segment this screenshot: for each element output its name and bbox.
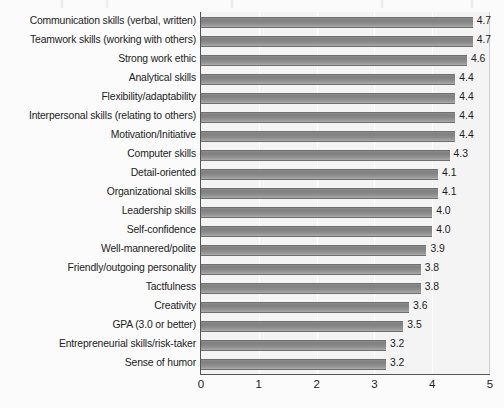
x-tick-label: 4: [429, 378, 435, 390]
bar-row: Strong work ethic4.6: [0, 51, 504, 70]
bar-track: 4.1: [201, 186, 490, 201]
bar: [201, 74, 455, 85]
bar-row: Leadership skills4.0: [0, 203, 504, 222]
bar: [201, 340, 386, 351]
x-tick-label: 3: [371, 378, 377, 390]
category-label: Well-mannered/polite: [101, 241, 196, 261]
category-label: Tactfulness: [146, 279, 196, 299]
bar-value-label: 3.8: [425, 262, 439, 273]
bar-track: 3.8: [201, 281, 490, 296]
bar: [201, 245, 426, 256]
x-tick-label: 0: [198, 378, 204, 390]
category-label: Organizational skills: [107, 184, 196, 204]
x-tick-label: 5: [487, 378, 493, 390]
category-label: Detail-oriented: [131, 165, 196, 185]
bar-row: Computer skills4.3: [0, 146, 504, 165]
category-label: Self-confidence: [127, 222, 196, 242]
bar-track: 3.8: [201, 262, 490, 277]
bar-track: 4.7: [201, 34, 490, 49]
bar: [201, 321, 403, 332]
category-label: GPA (3.0 or better): [112, 317, 196, 337]
category-label: Flexibility/adaptability: [101, 89, 196, 109]
bar-track: 3.2: [201, 338, 490, 353]
category-label: Computer skills: [127, 146, 196, 166]
bar-row: Detail-oriented4.1: [0, 165, 504, 184]
bar-track: 4.7: [201, 15, 490, 30]
bar-value-label: 4.0: [436, 224, 450, 235]
bar-value-label: 4.0: [436, 205, 450, 216]
bar-track: 4.4: [201, 110, 490, 125]
bar: [201, 55, 467, 66]
bar-rows-container: Communication skills (verbal, written)4.…: [0, 13, 504, 374]
bar-track: 4.1: [201, 167, 490, 182]
bar-value-label: 4.1: [442, 167, 456, 178]
bar-value-label: 3.5: [407, 319, 421, 330]
bar-track: 3.9: [201, 243, 490, 258]
bar-row: Sense of humor3.2: [0, 355, 504, 374]
bar: [201, 112, 455, 123]
bar-value-label: 4.4: [459, 129, 473, 140]
bar-value-label: 4.1: [442, 186, 456, 197]
bar-row: Friendly/outgoing personality3.8: [0, 260, 504, 279]
bar-track: 3.2: [201, 357, 490, 372]
bar-row: Tactfulness3.8: [0, 279, 504, 298]
bar: [201, 169, 438, 180]
bar: [201, 131, 455, 142]
bar-value-label: 4.4: [459, 110, 473, 121]
bar: [201, 283, 421, 294]
bar-row: Communication skills (verbal, written)4.…: [0, 13, 504, 32]
bar-row: Self-confidence4.0: [0, 222, 504, 241]
x-tick-label: 1: [256, 378, 262, 390]
bar-row: Teamwork skills (working with others)4.7: [0, 32, 504, 51]
category-label: Creativity: [154, 298, 196, 318]
bar-row: Well-mannered/polite3.9: [0, 241, 504, 260]
bar-value-label: 4.6: [471, 53, 485, 64]
horizontal-bar-chart: Communication skills (verbal, written)4.…: [0, 0, 504, 408]
bar-row: Organizational skills4.1: [0, 184, 504, 203]
bar-value-label: 3.8: [425, 281, 439, 292]
bar-value-label: 4.4: [459, 72, 473, 83]
bar-value-label: 4.3: [454, 148, 468, 159]
bar: [201, 302, 409, 313]
category-label: Motivation/Initiative: [111, 127, 196, 147]
bar-value-label: 4.7: [477, 15, 491, 26]
bar-value-label: 4.7: [477, 34, 491, 45]
bar-value-label: 3.2: [390, 357, 404, 368]
bar: [201, 150, 450, 161]
bar: [201, 36, 473, 47]
category-label: Friendly/outgoing personality: [68, 260, 197, 280]
category-label: Sense of humor: [125, 355, 196, 375]
bar-track: 4.3: [201, 148, 490, 163]
bar-track: 3.5: [201, 319, 490, 334]
bar-value-label: 3.2: [390, 338, 404, 349]
bar-row: Flexibility/adaptability4.4: [0, 89, 504, 108]
bar-value-label: 4.4: [459, 91, 473, 102]
bar-track: 4.6: [201, 53, 490, 68]
bar: [201, 17, 473, 28]
bar-track: 4.4: [201, 91, 490, 106]
bar-track: 4.4: [201, 72, 490, 87]
bar: [201, 188, 438, 199]
bar: [201, 359, 386, 370]
bar-row: Analytical skills4.4: [0, 70, 504, 89]
bar-track: 4.4: [201, 129, 490, 144]
bar-value-label: 3.6: [413, 300, 427, 311]
bar: [201, 226, 432, 237]
bar: [201, 264, 421, 275]
category-label: Communication skills (verbal, written): [30, 13, 196, 33]
category-label: Leadership skills: [122, 203, 196, 223]
bar-row: Creativity3.6: [0, 298, 504, 317]
bar-row: Entrepreneurial skills/risk-taker3.2: [0, 336, 504, 355]
bar: [201, 93, 455, 104]
category-label: Interpersonal skills (relating to others…: [29, 108, 196, 128]
category-label: Teamwork skills (working with others): [30, 32, 196, 52]
bar: [201, 207, 432, 218]
category-label: Analytical skills: [129, 70, 196, 90]
category-label: Strong work ethic: [118, 51, 196, 71]
bar-track: 4.0: [201, 224, 490, 239]
category-label: Entrepreneurial skills/risk-taker: [59, 336, 196, 356]
bar-row: Motivation/Initiative4.4: [0, 127, 504, 146]
bar-track: 3.6: [201, 300, 490, 315]
bar-row: Interpersonal skills (relating to others…: [0, 108, 504, 127]
x-axis-tick-labels: 012345: [0, 378, 504, 398]
